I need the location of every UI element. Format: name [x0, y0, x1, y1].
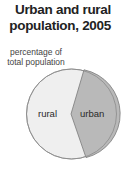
label-urban: urban: [80, 108, 104, 119]
pie-chart: rural urban: [0, 0, 129, 169]
label-rural: rural: [38, 108, 57, 119]
